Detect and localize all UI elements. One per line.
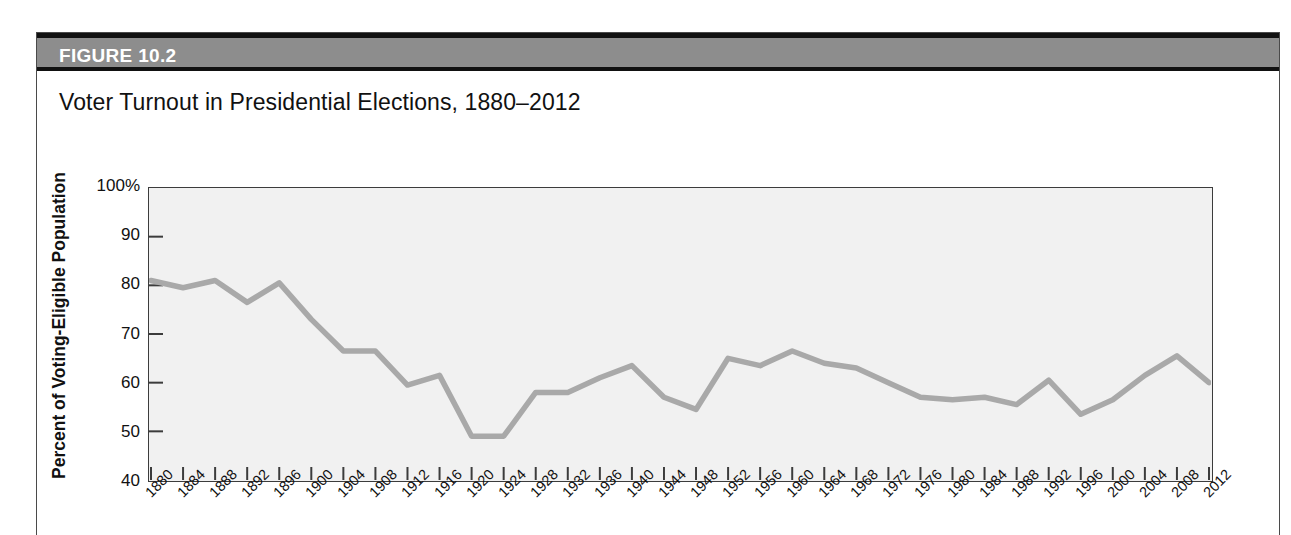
y-axis-ticks [149, 237, 163, 432]
turnout-line-chart [149, 188, 1211, 480]
figure-container: FIGURE 10.2 Voter Turnout in Presidentia… [36, 32, 1280, 535]
turnout-data-line [151, 280, 1209, 436]
figure-title: Voter Turnout in Presidential Elections,… [59, 89, 581, 116]
y-axis-tick-label: 40 [50, 471, 140, 491]
x-axis-tick-labels: 1880188418881892189619001904190819121916… [37, 489, 1279, 535]
figure-header-bar: FIGURE 10.2 [37, 33, 1279, 71]
figure-number-label: FIGURE 10.2 [59, 45, 176, 67]
y-axis-tick-label: 90 [50, 225, 140, 245]
chart-area: Percent of Voting-Eligible Population 10… [37, 125, 1279, 535]
y-axis-tick-label: 80 [50, 274, 140, 294]
y-axis-tick-label: 70 [50, 324, 140, 344]
plot-area [148, 187, 1213, 482]
y-axis-tick-label: 50 [50, 422, 140, 442]
y-axis-tick-label: 60 [50, 373, 140, 393]
y-axis-tick-label: 100% [50, 176, 140, 196]
